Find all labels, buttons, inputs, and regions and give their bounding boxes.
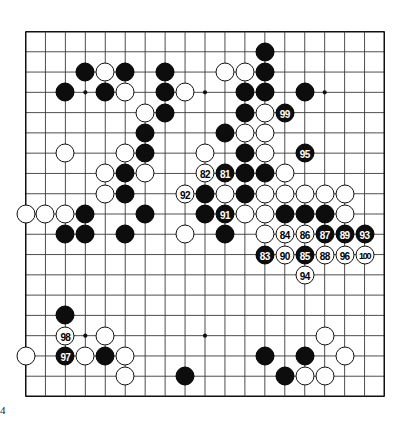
stone-white[interactable] <box>56 144 75 163</box>
stone-white[interactable] <box>215 184 234 203</box>
stone-move-92[interactable]: 92 <box>176 184 195 203</box>
stone-white[interactable] <box>76 346 95 365</box>
stone-black[interactable] <box>156 83 175 102</box>
stone-black[interactable] <box>76 225 95 244</box>
stone-white[interactable] <box>235 63 254 82</box>
stone-white[interactable] <box>116 367 135 386</box>
stone-move-100[interactable]: 100 <box>355 245 374 264</box>
stone-move-82[interactable]: 82 <box>196 164 215 183</box>
stone-move-93[interactable]: 93 <box>355 225 374 244</box>
stone-black[interactable] <box>116 164 135 183</box>
stone-black[interactable] <box>295 83 314 102</box>
stone-white[interactable] <box>16 205 35 224</box>
stone-white[interactable] <box>176 225 195 244</box>
stone-move-94[interactable]: 94 <box>295 265 314 284</box>
stone-move-98[interactable]: 98 <box>56 326 75 345</box>
stone-white[interactable] <box>255 225 274 244</box>
stone-black[interactable] <box>96 346 115 365</box>
stone-move-96[interactable]: 96 <box>335 245 354 264</box>
stone-move-83[interactable]: 83 <box>255 245 274 264</box>
stone-white[interactable] <box>116 346 135 365</box>
stone-move-91[interactable]: 91 <box>215 205 234 224</box>
stone-white[interactable] <box>235 123 254 142</box>
stone-white[interactable] <box>116 144 135 163</box>
stone-black[interactable] <box>116 225 135 244</box>
stone-move-95[interactable]: 95 <box>295 144 314 163</box>
stone-black[interactable] <box>56 225 75 244</box>
stone-black[interactable] <box>255 164 274 183</box>
stone-black[interactable] <box>96 83 115 102</box>
stone-black[interactable] <box>215 225 234 244</box>
stone-white[interactable] <box>295 184 314 203</box>
stone-white[interactable] <box>315 184 334 203</box>
stone-white[interactable] <box>136 164 155 183</box>
stone-white[interactable] <box>335 205 354 224</box>
stone-black[interactable] <box>255 63 274 82</box>
stone-move-88[interactable]: 88 <box>315 245 334 264</box>
stone-white[interactable] <box>56 205 75 224</box>
stone-white[interactable] <box>36 205 55 224</box>
stone-black[interactable] <box>196 184 215 203</box>
stone-move-84[interactable]: 84 <box>275 225 294 244</box>
stone-black[interactable] <box>76 63 95 82</box>
stone-white[interactable] <box>196 144 215 163</box>
stone-white[interactable] <box>235 205 254 224</box>
stone-white[interactable] <box>96 63 115 82</box>
stone-white[interactable] <box>116 83 135 102</box>
stone-white[interactable] <box>255 184 274 203</box>
stone-white[interactable] <box>335 346 354 365</box>
stone-black[interactable] <box>255 83 274 102</box>
stone-move-85[interactable]: 85 <box>295 245 314 264</box>
stone-black[interactable] <box>196 205 215 224</box>
stone-move-86[interactable]: 86 <box>295 225 314 244</box>
stone-black[interactable] <box>235 103 254 122</box>
stone-white[interactable] <box>136 103 155 122</box>
stone-black[interactable] <box>295 205 314 224</box>
stone-white[interactable] <box>96 326 115 345</box>
stone-black[interactable] <box>315 205 334 224</box>
stone-white[interactable] <box>255 144 274 163</box>
stone-move-81[interactable]: 81 <box>215 164 234 183</box>
stone-move-89[interactable]: 89 <box>335 225 354 244</box>
stone-black[interactable] <box>156 63 175 82</box>
stone-white[interactable] <box>335 184 354 203</box>
stone-white[interactable] <box>176 83 195 102</box>
stone-white[interactable] <box>255 123 274 142</box>
stone-black[interactable] <box>235 184 254 203</box>
stone-white[interactable] <box>255 205 274 224</box>
stone-black[interactable] <box>56 306 75 325</box>
stone-white[interactable] <box>255 103 274 122</box>
stone-white[interactable] <box>275 164 294 183</box>
go-board[interactable]: 9995828192918486878993839085889610094989… <box>25 31 385 397</box>
stone-black[interactable] <box>255 346 274 365</box>
stone-black[interactable] <box>136 205 155 224</box>
stone-black[interactable] <box>275 367 294 386</box>
stone-white[interactable] <box>16 346 35 365</box>
stone-black[interactable] <box>116 184 135 203</box>
stone-white[interactable] <box>96 184 115 203</box>
stone-black[interactable] <box>295 346 314 365</box>
stone-black[interactable] <box>136 144 155 163</box>
stone-black[interactable] <box>136 123 155 142</box>
stone-black[interactable] <box>176 367 195 386</box>
stone-white[interactable] <box>275 184 294 203</box>
stone-black[interactable] <box>116 63 135 82</box>
stone-white[interactable] <box>215 63 234 82</box>
stone-black[interactable] <box>255 42 274 61</box>
stone-white[interactable] <box>315 367 334 386</box>
stone-black[interactable] <box>235 83 254 102</box>
stone-black[interactable] <box>275 205 294 224</box>
stone-black[interactable] <box>235 144 254 163</box>
stone-white[interactable] <box>96 164 115 183</box>
stone-white[interactable] <box>315 326 334 345</box>
stone-move-87[interactable]: 87 <box>315 225 334 244</box>
stone-move-99[interactable]: 99 <box>275 103 294 122</box>
stone-black[interactable] <box>76 205 95 224</box>
stone-move-97[interactable]: 97 <box>56 346 75 365</box>
stone-black[interactable] <box>235 164 254 183</box>
stone-white[interactable] <box>295 367 314 386</box>
stone-black[interactable] <box>215 123 234 142</box>
stone-black[interactable] <box>56 83 75 102</box>
stone-black[interactable] <box>156 103 175 122</box>
stone-move-90[interactable]: 90 <box>275 245 294 264</box>
